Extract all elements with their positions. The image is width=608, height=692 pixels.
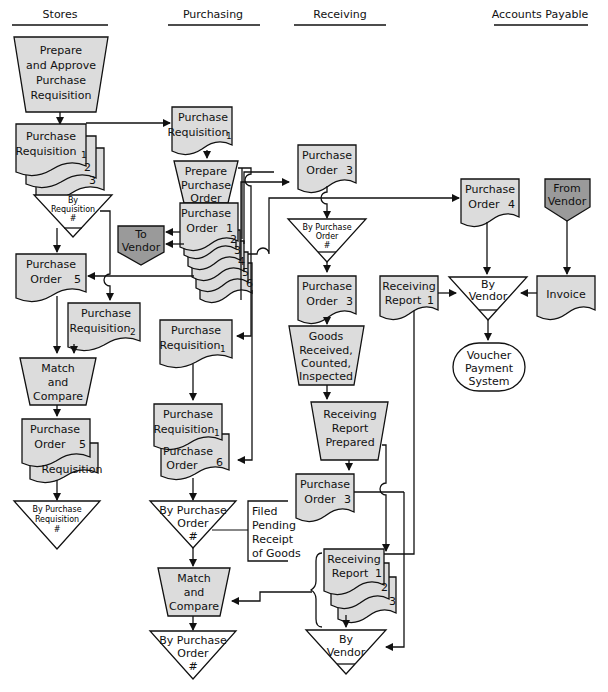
off-page-connector-from-vendor: From Vendor xyxy=(545,179,590,221)
svg-text:Purchase: Purchase xyxy=(181,207,231,220)
file-by-purchase-order-receiving: By Purchase Order # xyxy=(288,219,366,262)
svg-text:Report: Report xyxy=(332,567,369,580)
svg-text:Voucher: Voucher xyxy=(467,349,512,362)
svg-text:Pending: Pending xyxy=(252,519,296,532)
svg-text:2: 2 xyxy=(381,581,388,594)
svg-text:#: # xyxy=(54,525,61,534)
svg-text:Order: Order xyxy=(304,493,336,506)
svg-text:Prepare: Prepare xyxy=(185,165,227,178)
svg-text:Requisition: Requisition xyxy=(31,89,92,102)
svg-text:System: System xyxy=(468,375,509,388)
svg-text:Compare: Compare xyxy=(169,600,219,613)
svg-text:1: 1 xyxy=(375,567,382,580)
svg-text:Requisition: Requisition xyxy=(168,126,229,139)
svg-text:3: 3 xyxy=(346,295,353,308)
svg-text:6: 6 xyxy=(246,277,253,290)
doc-purchase-requisition-1-top: Purchase Requisition 1 xyxy=(168,107,232,155)
svg-text:Requisition: Requisition xyxy=(51,205,95,214)
svg-text:Purchase: Purchase xyxy=(163,408,213,421)
svg-text:By Purchase: By Purchase xyxy=(32,505,81,514)
svg-text:Purchase: Purchase xyxy=(181,179,231,192)
svg-text:2: 2 xyxy=(130,327,136,337)
svg-text:#: # xyxy=(324,241,331,250)
svg-text:#: # xyxy=(70,214,77,223)
process-prepare-purchase-requisition: Prepare and Approve Purchase Requisition xyxy=(14,37,108,112)
svg-text:1: 1 xyxy=(81,150,87,160)
svg-text:Inspected: Inspected xyxy=(299,370,353,383)
svg-text:1: 1 xyxy=(226,131,232,141)
doc-purchase-requisition-1-mid: Purchase Requisition 1 xyxy=(160,320,232,368)
svg-text:and Approve: and Approve xyxy=(26,59,96,72)
svg-text:Vendor: Vendor xyxy=(548,195,587,208)
process-receiving-report-prepared: Receiving Report Prepared xyxy=(311,402,388,460)
svg-text:Compare: Compare xyxy=(33,390,83,403)
svg-text:3: 3 xyxy=(344,493,351,506)
doc-invoice: Invoice xyxy=(537,276,595,320)
lane-header-purchasing: Purchasing xyxy=(168,8,260,25)
svg-text:Order: Order xyxy=(186,222,218,235)
svg-text:By Purchase: By Purchase xyxy=(302,223,351,232)
svg-text:Accounts Payable: Accounts Payable xyxy=(492,8,589,21)
svg-text:Goods: Goods xyxy=(309,330,344,343)
process-match-and-compare-purchasing: Match and Compare xyxy=(158,568,230,616)
svg-text:1: 1 xyxy=(214,428,220,438)
svg-text:Payment: Payment xyxy=(465,362,514,375)
svg-text:Purchase: Purchase xyxy=(300,478,350,491)
svg-text:Match: Match xyxy=(177,572,211,585)
svg-text:Requisition: Requisition xyxy=(42,463,103,476)
svg-text:Counted,: Counted, xyxy=(301,357,351,370)
doc-purchase-order-3-top: Purchase Order 3 xyxy=(298,145,356,193)
svg-text:of Goods: of Goods xyxy=(252,547,301,560)
doc-receiving-report-1: Receiving Report 1 xyxy=(380,276,438,320)
svg-text:Report: Report xyxy=(385,294,422,307)
file-by-purchase-order-final: By Purchase Order # xyxy=(150,631,236,679)
file-by-purchase-requisition: By Purchase Requisition # xyxy=(14,501,100,549)
svg-text:To: To xyxy=(134,228,147,241)
svg-text:Order: Order xyxy=(306,295,338,308)
svg-text:By Purchase: By Purchase xyxy=(159,504,227,517)
svg-text:and: and xyxy=(48,376,69,389)
terminal-voucher-payment-system: Voucher Payment System xyxy=(453,343,525,391)
svg-text:Order: Order xyxy=(177,647,209,660)
svg-text:Prepare: Prepare xyxy=(40,44,82,57)
svg-text:Stores: Stores xyxy=(43,8,78,21)
doc-stack-purchase-requisition: Purchase Requisition 1 2 3 xyxy=(16,124,104,200)
svg-text:1: 1 xyxy=(427,294,434,307)
svg-text:Report: Report xyxy=(332,422,369,435)
svg-text:Purchase: Purchase xyxy=(26,258,76,271)
doc-purchase-requisition-2: Purchase Requisition 2 xyxy=(68,303,140,351)
svg-text:Order: Order xyxy=(306,164,338,177)
lane-header-receiving: Receiving xyxy=(294,8,386,25)
process-prepare-purchase-order: Prepare Purchase Order xyxy=(174,161,238,205)
file-by-vendor-accounts-payable: By Vendor xyxy=(449,277,527,320)
svg-text:Order: Order xyxy=(34,438,66,451)
svg-text:Requisition: Requisition xyxy=(70,322,131,335)
process-match-and-compare-stores: Match and Compare xyxy=(20,358,96,405)
svg-text:Order: Order xyxy=(316,232,339,241)
svg-text:Purchase: Purchase xyxy=(163,445,213,458)
svg-text:and: and xyxy=(184,586,205,599)
svg-text:3: 3 xyxy=(346,164,353,177)
off-page-connector-to-vendor: To Vendor xyxy=(118,226,164,265)
file-by-vendor-receiving: By Vendor xyxy=(306,630,386,674)
svg-text:Purchase: Purchase xyxy=(302,280,352,293)
svg-text:Requisition: Requisition xyxy=(16,145,77,158)
svg-text:Receipt: Receipt xyxy=(252,533,294,546)
svg-text:Receiving: Receiving xyxy=(382,280,435,293)
svg-text:5: 5 xyxy=(79,438,86,451)
svg-text:6: 6 xyxy=(216,456,223,469)
svg-text:3: 3 xyxy=(89,174,96,187)
svg-text:From: From xyxy=(553,182,580,195)
svg-text:By: By xyxy=(68,196,78,205)
doc-purchase-order-3-mid: Purchase Order 3 xyxy=(298,276,356,324)
svg-text:Filed: Filed xyxy=(252,505,277,518)
svg-text:#: # xyxy=(188,660,197,673)
flowchart: Stores Purchasing Receiving Accounts Pay… xyxy=(0,0,608,692)
svg-text:#: # xyxy=(188,530,197,543)
svg-text:Requisition: Requisition xyxy=(154,423,215,436)
svg-text:2: 2 xyxy=(84,161,91,174)
lane-header-accounts-payable: Accounts Payable xyxy=(492,8,589,25)
doc-purchase-order-3-bottom: Purchase Order 3 xyxy=(296,474,354,522)
svg-text:Purchase: Purchase xyxy=(30,423,80,436)
svg-text:3: 3 xyxy=(389,595,396,608)
